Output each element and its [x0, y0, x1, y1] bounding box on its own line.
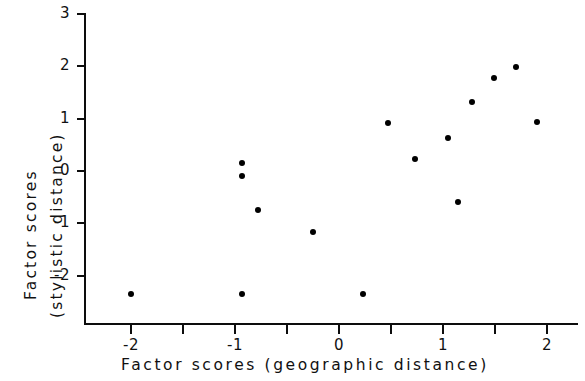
data-point	[239, 160, 245, 166]
data-point	[491, 75, 497, 81]
scatter-plot-figure: 3210-1-2 -2-1012 Factor scores (geograph…	[0, 0, 585, 381]
data-point	[469, 99, 475, 105]
y-axis-title-line2: (stylistic distance)	[48, 132, 66, 318]
data-point	[239, 173, 245, 179]
data-point	[255, 207, 261, 213]
data-point	[534, 119, 540, 125]
y-axis-title-line1: Factor scores	[22, 169, 40, 300]
data-point	[310, 229, 316, 235]
data-point	[239, 291, 245, 297]
data-point	[360, 291, 366, 297]
data-point	[513, 64, 519, 70]
x-axis-title: Factor scores (geographic distance)	[70, 356, 540, 374]
data-point	[445, 135, 451, 141]
data-point	[385, 120, 391, 126]
data-point	[128, 291, 134, 297]
data-point	[412, 156, 418, 162]
y-axis-title: Factor scores (stylistic distance)	[0, 0, 70, 330]
data-point-group	[0, 0, 585, 381]
data-point	[455, 199, 461, 205]
